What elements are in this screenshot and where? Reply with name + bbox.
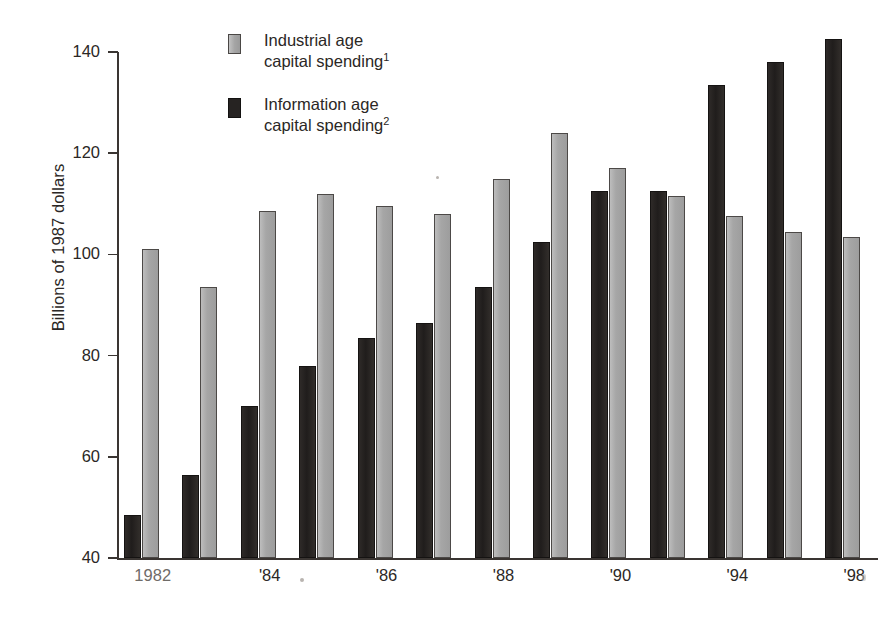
x-axis-tick-label: '98 [814,566,886,585]
bar-group [124,52,159,558]
chart-legend: Industrial agecapital spending1Informati… [228,30,488,158]
bar-information-age [182,475,199,558]
bar-industrial-age [843,237,860,558]
y-axis-tick [108,557,118,559]
bar-group [591,52,626,558]
legend-label-line2: capital spending2 [264,115,488,136]
legend-label-line1: Information age [264,94,488,115]
bar-information-age [358,338,375,558]
bar-information-age [241,406,258,558]
scan-artifact [436,176,439,179]
x-axis-tick-label: 1982 [113,566,193,585]
y-axis-tick-label: 80 [42,346,100,365]
bar-information-age [591,191,608,558]
bar-group [650,52,685,558]
bar-group [182,52,217,558]
y-axis-tick [108,51,118,53]
bar-industrial-age [726,216,743,558]
bar-group [708,52,743,558]
y-axis-tick-label: 40 [42,548,100,567]
scan-artifact [862,574,866,581]
bar-industrial-age [142,249,159,558]
bar-industrial-age [785,232,802,558]
bar-industrial-age [259,211,276,558]
bar-group [825,52,860,558]
bar-information-age [708,85,725,558]
bar-information-age [825,39,842,558]
legend-swatch-information-age [228,98,241,118]
bar-industrial-age [551,133,568,558]
legend-item[interactable]: Industrial agecapital spending1 [228,30,488,72]
x-axis-tick-label: '88 [464,566,544,585]
bar-industrial-age [493,179,510,559]
x-axis-tick-label: '90 [580,566,660,585]
y-axis-tick-label: 140 [42,42,100,61]
bar-industrial-age [200,287,217,558]
legend-footnote-marker: 1 [383,51,389,63]
bar-chart: Billions of 1987 dollars 406080100120140… [0,0,886,618]
bar-group [533,52,568,558]
bar-information-age [416,323,433,558]
y-axis-tick-label: 100 [42,244,100,263]
legend-label: Information agecapital spending2 [264,94,488,136]
y-axis-tick [108,456,118,458]
legend-footnote-marker: 2 [383,115,389,127]
bar-industrial-age [668,196,685,558]
bar-information-age [299,366,316,558]
legend-label-line2: capital spending1 [264,51,488,72]
bar-industrial-age [376,206,393,558]
bar-information-age [650,191,667,558]
legend-label: Industrial agecapital spending1 [264,30,488,72]
bar-industrial-age [609,168,626,558]
legend-label-line1: Industrial age [264,30,488,51]
x-axis-tick-label: '84 [230,566,310,585]
bar-information-age [475,287,492,558]
x-axis-tick-label: '94 [697,566,777,585]
legend-swatch-industrial-age [228,34,241,54]
legend-item[interactable]: Information agecapital spending2 [228,94,488,136]
y-axis-tick [108,152,118,154]
bar-information-age [767,62,784,558]
bar-group [767,52,802,558]
bar-industrial-age [317,194,334,558]
x-axis-tick-label: '86 [347,566,427,585]
bar-information-age [533,242,550,558]
bar-information-age [124,515,141,558]
y-axis-tick [108,355,118,357]
y-axis-tick [108,254,118,256]
bar-industrial-age [434,214,451,558]
x-axis-line [117,558,878,560]
y-axis-tick-label: 60 [42,447,100,466]
y-axis-tick-label: 120 [42,143,100,162]
scan-artifact [300,578,304,582]
